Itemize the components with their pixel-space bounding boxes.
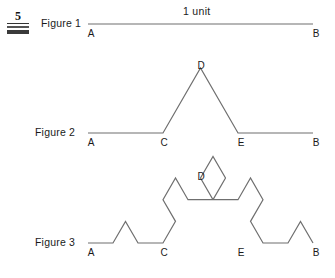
figure-2-curve bbox=[88, 68, 313, 133]
figure-3-label-D: D bbox=[197, 171, 204, 182]
figure-sheet: 5 1 unit Figure 1 Figure 2 Figure 3 A B … bbox=[0, 0, 335, 278]
figure-1-label-B: B bbox=[313, 28, 320, 39]
figure-2-label-D: D bbox=[197, 60, 204, 71]
figure-3-label-B: B bbox=[313, 247, 320, 258]
figure-3-label-C: C bbox=[160, 247, 167, 258]
figure-3-label-E: E bbox=[238, 247, 245, 258]
figure-3-label-A: A bbox=[88, 247, 95, 258]
figure-3-curve bbox=[88, 156, 313, 243]
figure-2-label-E: E bbox=[238, 137, 245, 148]
figure-2-label-B: B bbox=[313, 137, 320, 148]
figure-1-label-A: A bbox=[88, 28, 95, 39]
figure-2-label-A: A bbox=[88, 137, 95, 148]
figure-2-label-C: C bbox=[160, 137, 167, 148]
